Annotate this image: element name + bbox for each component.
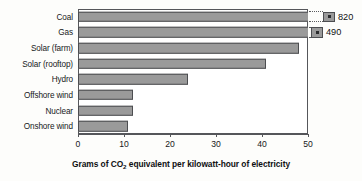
x-axis-tick [216, 134, 217, 137]
category-label: Hydro [52, 75, 73, 84]
x-axis-title: Grams of CO2 equivalent per kilowatt-hou… [0, 159, 362, 169]
bar-row: Solar (rooftop) [78, 56, 308, 72]
axis-title-before: Grams of CO [72, 159, 123, 169]
x-axis-tick-label: 20 [165, 139, 175, 149]
bar [78, 121, 128, 132]
bar-row: Coal820 [78, 9, 308, 25]
x-axis-tick [78, 134, 79, 137]
bar-row: Offshore wind [78, 87, 308, 103]
bar-row: Gas490 [78, 25, 308, 41]
axis-break-stub [323, 12, 335, 23]
bar-value-label: 490 [326, 27, 341, 37]
category-label: Solar (farm) [31, 44, 73, 53]
bar-row: Solar (farm) [78, 40, 308, 56]
category-label: Solar (rooftop) [22, 59, 73, 68]
category-label: Coal [57, 12, 73, 21]
x-axis-line [78, 134, 308, 135]
category-label: Offshore wind [24, 90, 73, 99]
x-axis-tick-label: 10 [119, 139, 129, 149]
category-label: Gas [58, 28, 73, 37]
bar [78, 90, 133, 101]
axis-title-after: equivalent per kilowatt-hour of electric… [127, 159, 290, 169]
bar-row: Hydro [78, 72, 308, 88]
category-label: Nuclear [45, 106, 73, 115]
bar-row: Nuclear [78, 103, 308, 119]
x-axis-tick [124, 134, 125, 137]
bar [78, 27, 308, 38]
x-axis-tick-label: 50 [303, 139, 313, 149]
chart-figure: Coal820Gas490Solar (farm)Solar (rooftop)… [0, 0, 362, 181]
x-axis-tick [308, 134, 309, 137]
axis-break-marker: 490 [309, 26, 341, 38]
axis-title-subscript: 2 [123, 163, 126, 170]
x-axis-tick-label: 30 [211, 139, 221, 149]
bar-value-label: 820 [338, 12, 353, 22]
bar [78, 58, 266, 69]
x-axis-tick-label: 0 [76, 139, 81, 149]
bar [78, 12, 308, 23]
axis-break-stub [311, 27, 323, 38]
x-axis-tick [262, 134, 263, 137]
bar-row: Onshore wind [78, 118, 308, 134]
x-axis-tick-label: 40 [257, 139, 267, 149]
axis-break-marker: 820 [309, 11, 353, 23]
bar [78, 43, 299, 54]
bar [78, 74, 188, 85]
bar [78, 105, 133, 116]
x-axis-tick [170, 134, 171, 137]
axis-break-dashes [309, 11, 323, 22]
category-label: Onshore wind [24, 122, 73, 131]
